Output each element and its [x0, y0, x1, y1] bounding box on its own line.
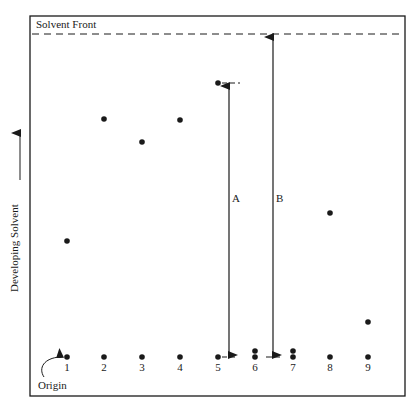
- spot-lane-4: [177, 117, 183, 123]
- developing-solvent-label: Developing Solvent: [8, 204, 20, 292]
- origin-pointer-arrow: [42, 357, 60, 377]
- spot-lane-2: [101, 116, 107, 122]
- spot-lane-8: [327, 354, 333, 360]
- spot-lane-8: [327, 210, 333, 216]
- lane-number-6: 6: [252, 362, 258, 373]
- spot-lane-5: [215, 354, 221, 360]
- lane-number-1: 1: [64, 362, 70, 373]
- spot-lane-4: [177, 354, 183, 360]
- spot-lane-1: [64, 238, 70, 244]
- spot-lane-6: [252, 354, 258, 360]
- lane-number-2: 2: [101, 362, 107, 373]
- lane-number-7: 7: [290, 362, 296, 373]
- plate-border: [30, 16, 405, 396]
- lane-number-9: 9: [365, 362, 371, 373]
- tlc-plate-diagram: [0, 0, 419, 413]
- solvent-front-label: Solvent Front: [36, 19, 96, 30]
- origin-label: Origin: [38, 380, 67, 391]
- lane-number-8: 8: [327, 362, 333, 373]
- lane-number-5: 5: [215, 362, 221, 373]
- distance-label-a: A: [232, 193, 240, 204]
- spot-lane-6: [252, 348, 258, 354]
- spot-lane-2: [101, 354, 107, 360]
- lane-number-3: 3: [139, 362, 145, 373]
- spot-lane-5: [215, 80, 221, 86]
- spots-group: [64, 80, 371, 360]
- distance-label-b: B: [276, 193, 283, 204]
- lane-number-4: 4: [177, 362, 183, 373]
- spot-lane-9: [365, 319, 371, 325]
- spot-lane-7: [290, 348, 296, 354]
- spot-lane-1: [64, 354, 70, 360]
- spot-lane-9: [365, 354, 371, 360]
- spot-lane-3: [139, 139, 145, 145]
- spot-lane-7: [290, 354, 296, 360]
- spot-lane-3: [139, 354, 145, 360]
